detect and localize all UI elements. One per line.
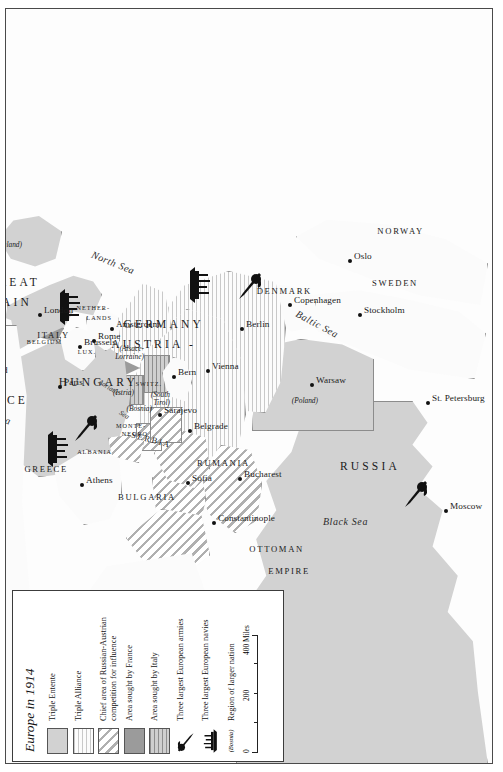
water-label-black-sea: Black Sea [323,517,368,527]
legend-label-triple-alliance: Triple Alliance [73,671,84,721]
country-label-great-britain-1: GREAT [5,277,40,289]
city-label-belgrade: Belgrade [194,422,228,431]
legend-entry-france-seek: Area sought by France [124,600,145,754]
legend-label-armies: Three largest European armies [175,619,186,721]
city-label-copenhagen: Copenhagen [294,296,341,305]
legend-swatch-italy-seek [149,728,170,754]
army-icon [175,729,195,753]
legend-swatch-competition [98,728,119,754]
city-dot-bern [172,375,176,379]
country-label-denmark: DENMARK [257,287,312,296]
city-label-warsaw: Warsaw [316,376,346,385]
legend-entry-armies: Three largest European armies [175,600,196,754]
city-label-sarajevo: Sarajevo [164,406,197,415]
legend-entry-triple-entente: Triple Entente [47,600,68,754]
city-label-london: London [44,306,73,315]
city-dot-athens [80,483,84,487]
army-icon-france [74,413,100,447]
country-label-montenegro-2: NEGRO [122,431,148,437]
country-label-luxembourg: LUX. [78,349,96,355]
legend-inner-rotated: Europe in 1914 Triple Entente Triple All… [13,591,285,763]
country-label-switzerland: SWITZ. [136,381,162,387]
legend-label-triple-entente: Triple Entente [47,673,58,721]
city-dot-warsaw [310,383,314,387]
scale-tick-400: 400 Miles [242,625,251,655]
city-dot-moscow [444,509,448,513]
legend-label-competition: Chief area of Russian-Austrian competiti… [98,600,119,721]
scale-minor-tick-1 [254,722,257,723]
city-label-athens: Athens [86,476,113,485]
map-page: RUSSIA SWEDEN NORWAY DENMARK GERMANY NET… [0,0,503,772]
city-label-berlin: Berlin [246,320,270,329]
scale-tick-200: 200 [242,690,251,701]
city-label-constantinople: Constantinople [218,514,275,523]
country-label-ottoman: OTTOMAN [249,545,304,554]
legend-title: Europe in 1914 [22,600,38,752]
city-dot-sarajevo [158,413,162,417]
legend-label-italy-seek: Area sought by Italy [149,652,160,721]
legend-label-france-seek: Area sought by France [124,645,135,721]
legend-swatch-france-seek [124,728,145,754]
legend-swatch-armies [175,728,196,754]
navy-icon-france [46,429,68,469]
scale-minor-tick-2 [254,693,257,694]
city-dot-vienna [206,369,210,373]
city-dot-berlin [240,327,244,331]
legend-entry-italy-seek: Area sought by Italy [149,600,170,754]
city-label-amsterdam: Amsterdam [116,320,160,329]
map-legend: Europe in 1914 Triple Entente Triple All… [12,590,284,762]
city-label-bern: Bern [178,368,196,377]
city-label-rome: Rome [98,332,120,341]
scale-tick-0: 0 [242,749,251,753]
city-label-sofia: Sofia [192,474,212,483]
scale-bar-rule [252,635,258,753]
annotation-bosnia: (Bosnia) [127,405,152,412]
city-dot-oslo [348,259,352,263]
country-label-ireland: (Ireland) [5,241,22,248]
city-label-madrid: Madrid [5,366,8,375]
country-label-netherlands-1: NETHER- [77,305,110,311]
city-label-bucharest: Bucharest [244,470,282,479]
annotation-south-tirol-2: Tirol) [153,399,170,406]
city-label-stockholm: Stockholm [364,306,405,315]
annotation-poland: (Poland) [292,397,318,404]
city-dot-stockholm [358,313,362,317]
legend-swatch-navies [200,728,221,754]
legend-entry-region-of-larger-nation: (Bosnia) Region of larger nation [226,600,237,754]
country-label-montenegro-1: MONTE- [116,423,146,429]
city-dot-constantinople [212,521,216,525]
country-label-netherlands-2: LANDS [86,315,112,321]
legend-entry-triple-alliance: Triple Alliance [73,600,94,754]
country-label-sweden: SWEDEN [372,279,418,288]
country-label-greece: GREECE [24,465,68,474]
city-dot-amsterdam [110,327,114,331]
legend-label-navies: Three largest European navies [200,620,211,721]
city-dot-london [38,313,42,317]
army-icon-russia [404,479,430,513]
city-label-paris: Paris [64,378,83,387]
legend-label-bosnia-example: (Bosnia) [227,728,234,754]
city-label-oslo: Oslo [354,252,372,261]
city-dot-st-petersburg [426,401,430,405]
navy-icon [202,728,220,754]
city-dot-belgrade [188,429,192,433]
city-label-moscow: Moscow [450,502,482,511]
legend-swatch-triple-alliance [73,728,94,754]
city-label-st-petersburg: St. Petersburg [432,394,485,403]
city-dot-copenhagen [288,303,292,307]
country-label-russia: RUSSIA [340,461,400,473]
scale-minor-tick-3 [254,663,257,664]
country-label-albania: ALBANIA [77,449,112,455]
annotation-istria: (Istria) [113,389,134,396]
country-label-italy: ITALY [37,331,70,340]
annotation-alsace-2: Lorraine) [115,353,144,360]
country-label-rumania: RUMANIA [197,459,250,468]
legend-entry-navies: Three largest European navies [200,600,221,754]
navy-icon-germany [188,265,210,305]
country-label-bulgaria: BULGARIA [118,493,176,502]
legend-label-region-of-larger-nation: Region of larger nation [226,643,237,721]
map-scale-bar: 0 200 400 Miles [242,600,258,753]
legend-swatch-triple-entente [47,728,68,754]
country-label-norway: NORWAY [377,227,424,236]
country-label-ottoman-empire: EMPIRE [268,567,310,576]
